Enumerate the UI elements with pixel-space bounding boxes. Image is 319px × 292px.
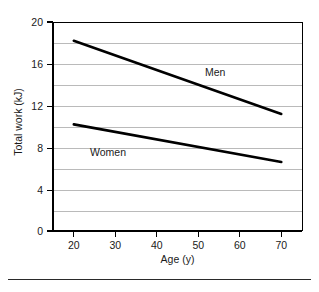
series-line-men <box>74 41 281 114</box>
x-tick-label-40: 40 <box>142 239 172 251</box>
y-axis-title: Total work (kJ) <box>12 62 24 182</box>
y-tick-marks <box>47 22 53 231</box>
y-tick-label-4: 4 <box>17 184 43 196</box>
x-tick-label-30: 30 <box>100 239 130 251</box>
series-label-men: Men <box>205 66 225 78</box>
x-tick-label-20: 20 <box>59 239 89 251</box>
x-tick-label-60: 60 <box>225 239 255 251</box>
x-tick-label-70: 70 <box>266 239 296 251</box>
series-label-women: Women <box>90 146 126 158</box>
chart-figure: 20 16 12 8 4 0 20 30 40 50 60 70 Total w… <box>0 0 319 292</box>
x-tick-label-50: 50 <box>183 239 213 251</box>
y-tick-label-0: 0 <box>17 225 43 237</box>
x-tick-marks <box>74 231 281 237</box>
x-axis-title: Age (y) <box>53 253 302 265</box>
y-tick-label-20: 20 <box>17 16 43 28</box>
footer-divider <box>8 279 311 280</box>
data-series <box>74 41 281 162</box>
